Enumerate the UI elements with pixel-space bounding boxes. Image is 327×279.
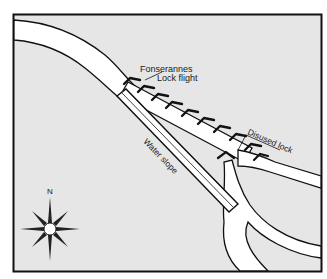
- compass-north-label: N: [47, 187, 53, 196]
- canal-map: Fonserannes Lock flight Water slope Disu…: [0, 0, 327, 279]
- lock-flight-label-2: Lock flight: [157, 73, 198, 83]
